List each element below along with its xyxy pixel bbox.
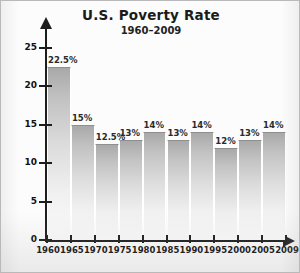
y-axis-tick — [39, 201, 52, 203]
bar-value-label: 13% — [239, 129, 259, 138]
poverty-rate-chart-figure: U.S. Poverty Rate 1960–2009 Percent of P… — [0, 0, 300, 273]
bar — [238, 140, 262, 240]
bar — [262, 132, 286, 240]
y-axis-tick — [39, 124, 52, 126]
bar-value-label: 15% — [72, 114, 92, 123]
bar — [167, 140, 191, 240]
bar-value-label: 13% — [168, 129, 188, 138]
x-axis-tick — [237, 235, 239, 243]
y-axis-tick-label: 25 — [7, 43, 37, 52]
bar — [190, 132, 214, 240]
y-axis-tick-label: 10 — [7, 158, 37, 167]
x-axis-tick — [189, 235, 191, 243]
bar — [214, 148, 238, 240]
bar — [95, 144, 119, 240]
plot-area: 22.5%15%12.5%13%14%13%14%12%13%14% 05101… — [1, 1, 300, 273]
x-axis-tick — [46, 235, 48, 243]
x-axis-tick-label: 2009 — [270, 245, 300, 255]
x-axis-tick — [261, 235, 263, 243]
bar — [119, 140, 143, 240]
x-axis-tick — [142, 235, 144, 243]
y-axis-tick-label: 20 — [7, 81, 37, 90]
x-axis-tick — [213, 235, 215, 243]
bar-value-label: 14% — [144, 121, 164, 130]
bar-value-label: 14% — [191, 121, 211, 130]
bar-value-label: 13% — [120, 129, 140, 138]
x-axis-tick — [94, 235, 96, 243]
bar — [71, 125, 95, 240]
x-axis-tick — [285, 235, 287, 243]
bar — [143, 132, 167, 240]
y-axis-tick — [39, 85, 52, 87]
bar-value-label: 14% — [263, 121, 283, 130]
x-axis-tick — [166, 235, 168, 243]
y-axis-arrow-icon — [40, 17, 52, 29]
x-axis-tick — [70, 235, 72, 243]
bar-value-label: 12% — [215, 137, 235, 146]
y-axis-tick-label: 15 — [7, 120, 37, 129]
bar — [47, 67, 71, 240]
y-axis-tick — [39, 47, 52, 49]
y-axis-tick-label: 0 — [7, 235, 37, 244]
y-axis-tick-label: 5 — [7, 197, 37, 206]
y-axis-tick — [39, 162, 52, 164]
bar-value-label: 22.5% — [48, 56, 78, 65]
x-axis-tick — [118, 235, 120, 243]
